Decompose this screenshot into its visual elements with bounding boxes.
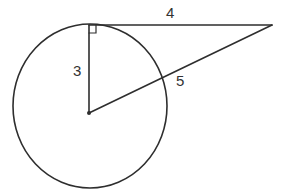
center-point	[87, 111, 91, 115]
tangent-length-label: 4	[166, 4, 174, 21]
circle-tangent-diagram: 4 3 5	[0, 0, 284, 194]
diagram-canvas: 4 3 5	[0, 0, 284, 194]
right-angle-marker-icon	[89, 25, 96, 33]
radius-length-label: 3	[73, 62, 81, 79]
hypotenuse-segment	[89, 25, 272, 113]
secant-length-label: 5	[176, 72, 184, 89]
circle	[13, 24, 167, 188]
